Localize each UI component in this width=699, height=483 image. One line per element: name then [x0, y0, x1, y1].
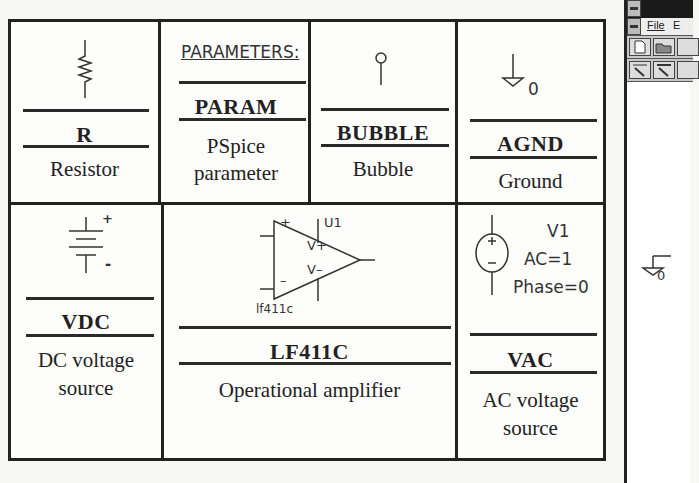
- part-description: AC voltage: [458, 387, 603, 414]
- cell-resistor: R Resistor: [11, 22, 158, 202]
- divider-rule: [470, 333, 597, 336]
- save-button[interactable]: [677, 38, 699, 56]
- divider-rule: [179, 118, 306, 121]
- parameters-label: PARAMETERS:: [181, 42, 299, 62]
- divider-rule: [23, 109, 149, 112]
- parts-table: R Resistor PARAMETERS: PARAM PSpice para…: [8, 19, 606, 461]
- menu-bar: File E: [627, 18, 693, 36]
- part-description: PSpice: [161, 133, 311, 160]
- document-menu-button[interactable]: [627, 18, 641, 35]
- menu-file[interactable]: File: [647, 19, 665, 31]
- menu-edit[interactable]: E: [673, 19, 680, 31]
- pencil-icon: [630, 62, 650, 78]
- cell-agnd: 0 AGND Ground: [458, 22, 603, 202]
- plus-label: +: [102, 211, 113, 226]
- ref-designator: V1: [547, 221, 569, 241]
- cell-vac: V1 AC=1 Phase=0 VAC AC voltage source: [458, 205, 603, 458]
- part-description: Bubble: [311, 156, 455, 183]
- title-bar: [627, 0, 693, 18]
- divider-rule: [179, 81, 306, 84]
- bubble-icon: [371, 52, 391, 92]
- part-description: DC voltage: [11, 347, 161, 374]
- ground-label: 0: [657, 268, 665, 283]
- pencil-icon: [654, 62, 674, 78]
- system-menu-button[interactable]: [627, 0, 641, 17]
- divider-rule: [26, 334, 154, 337]
- part-description: source: [11, 375, 161, 402]
- new-file-icon: [630, 39, 650, 55]
- divider-rule: [321, 144, 449, 147]
- cell-vdc: + - VDC DC voltage source: [11, 205, 161, 458]
- pin-minus: –: [280, 273, 287, 288]
- cell-bubble: BUBBLE Bubble: [311, 22, 455, 202]
- divider-rule: [470, 119, 597, 122]
- pin-plus: +: [280, 215, 291, 230]
- divider-rule: [470, 156, 597, 159]
- part-description: parameter: [161, 160, 311, 187]
- toolbar-button[interactable]: [677, 61, 699, 79]
- toolbar-1: [627, 36, 693, 59]
- ref-designator: U1: [324, 215, 342, 230]
- open-file-button[interactable]: [653, 38, 675, 56]
- cell-param: PARAMETERS: PARAM PSpice parameter: [161, 22, 308, 202]
- part-name: BUBBLE: [311, 120, 455, 146]
- part-name: AGND: [458, 131, 603, 157]
- part-name: VDC: [11, 309, 161, 335]
- minus-label: -: [105, 255, 111, 273]
- ac-value: AC=1: [524, 249, 572, 269]
- cell-lf411c: U1 + – V+ V– lf411c LF411C Operational a…: [164, 205, 455, 458]
- divider-rule: [23, 145, 149, 148]
- open-folder-icon: [654, 39, 674, 55]
- new-file-button[interactable]: [629, 38, 651, 56]
- phase-value: Phase=0: [513, 277, 589, 297]
- divider-rule: [179, 326, 451, 329]
- vplus-label: V+: [307, 238, 327, 253]
- dc-source-icon: [66, 217, 106, 287]
- draw-bus-button[interactable]: [653, 61, 675, 79]
- schematics-window: File E 0: [624, 0, 690, 483]
- part-description: Operational amplifier: [164, 377, 455, 404]
- ground-label: 0: [528, 79, 539, 99]
- part-description: Resistor: [11, 156, 158, 183]
- divider-rule: [26, 297, 154, 300]
- toolbar-2: [627, 59, 693, 82]
- draw-wire-button[interactable]: [629, 61, 651, 79]
- part-name: PARAM: [161, 94, 311, 120]
- part-label: lf411c: [256, 302, 293, 316]
- vminus-label: V–: [307, 262, 322, 277]
- divider-rule: [179, 362, 451, 365]
- part-description: Ground: [458, 168, 603, 195]
- part-description: source: [458, 415, 603, 442]
- divider-rule: [470, 371, 597, 374]
- resistor-icon: [75, 40, 95, 100]
- part-name: VAC: [458, 347, 603, 373]
- divider-rule: [321, 108, 449, 111]
